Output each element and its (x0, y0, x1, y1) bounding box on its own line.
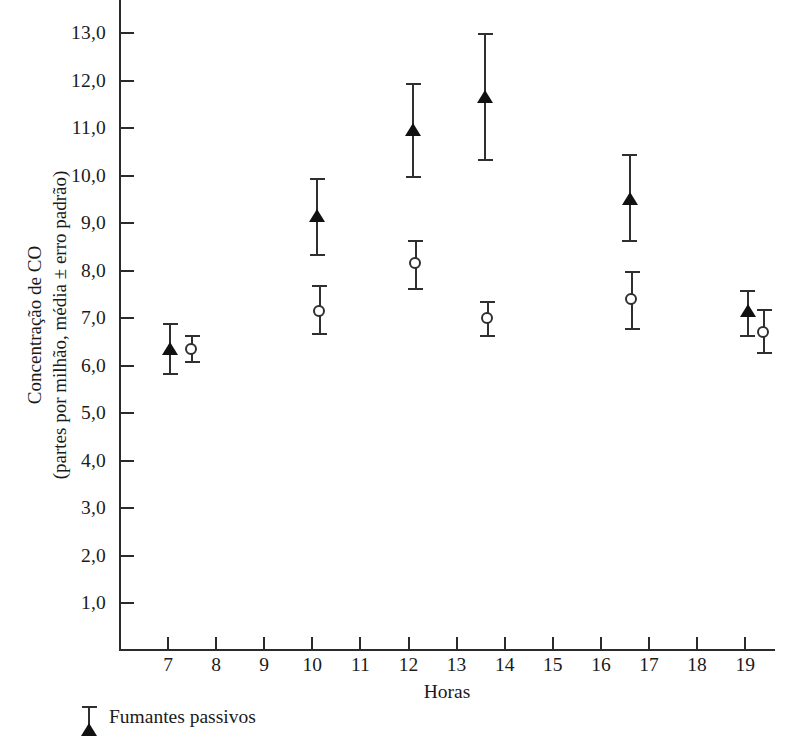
legend-label-fumantes-passivos: Fumantes passivos (109, 706, 256, 728)
error-bar-cap-lower (740, 335, 755, 337)
y-axis-title: Concentração de CO (partes por milhão, m… (22, 115, 72, 535)
marker-open-circle (313, 305, 325, 317)
error-bar-cap-lower (406, 176, 421, 178)
y-tick (121, 222, 134, 224)
error-bar-cap-lower (480, 335, 495, 337)
x-tick (504, 637, 506, 650)
error-bar-cap-upper (163, 323, 178, 325)
marker-filled-triangle (740, 304, 756, 317)
x-tick (456, 637, 458, 650)
x-tick-label: 7 (148, 655, 188, 675)
x-tick-label: 13 (437, 655, 477, 675)
x-tick-label: 10 (292, 655, 332, 675)
error-bar-cap-lower (163, 373, 178, 375)
error-bar-cap-lower (757, 352, 772, 354)
error-bar-cap-upper (408, 240, 423, 242)
x-tick (263, 637, 265, 650)
data-point (623, 271, 641, 330)
data-point (161, 323, 179, 375)
x-tick (744, 637, 746, 650)
x-tick-label: 16 (581, 655, 621, 675)
error-bar-cap-upper (312, 285, 327, 287)
x-tick (408, 637, 410, 650)
error-bar-cap-upper (478, 33, 493, 35)
y-tick (121, 507, 134, 509)
y-axis-line (119, 0, 121, 651)
y-tick (121, 270, 134, 272)
y-tick-label: 1,0 (48, 593, 106, 613)
chart-legend: Fumantes passivos (80, 706, 256, 736)
error-bar-cap-upper (622, 154, 637, 156)
x-tick-label: 18 (677, 655, 717, 675)
error-bar-cap-upper (625, 271, 640, 273)
y-tick-label: 13,0 (48, 23, 106, 43)
y-tick (121, 412, 134, 414)
error-bar-cap-lower (185, 361, 200, 363)
data-point (621, 154, 639, 242)
data-point (476, 33, 494, 161)
data-point (311, 285, 329, 335)
co-concentration-chart: 1,02,03,04,05,06,07,08,09,010,011,012,01… (0, 0, 785, 738)
x-tick-label: 14 (485, 655, 525, 675)
y-tick (121, 555, 134, 557)
y-tick (121, 175, 134, 177)
legend-marker-filled-triangle (80, 706, 98, 736)
x-axis-line (119, 649, 775, 651)
y-tick-label: 2,0 (48, 546, 106, 566)
y-tick (121, 127, 134, 129)
x-axis-title: Horas (119, 681, 775, 703)
x-tick-label: 17 (629, 655, 669, 675)
y-tick (121, 460, 134, 462)
data-point (755, 309, 773, 354)
marker-filled-triangle (309, 209, 325, 222)
data-point (404, 83, 422, 178)
marker-open-circle (409, 257, 421, 269)
y-tick (121, 602, 134, 604)
marker-filled-triangle (622, 192, 638, 205)
error-bar-cap-upper (740, 290, 755, 292)
marker-open-circle (625, 293, 637, 305)
data-point (407, 240, 425, 290)
data-point (479, 301, 497, 337)
error-bar-cap-upper (480, 301, 495, 303)
y-tick (121, 365, 134, 367)
error-bar-cap-lower (310, 254, 325, 256)
marker-open-circle (757, 326, 769, 338)
error-bar-cap-lower (408, 288, 423, 290)
x-tick-label: 19 (725, 655, 765, 675)
error-bar-cap-lower (622, 240, 637, 242)
x-tick-label: 9 (244, 655, 284, 675)
data-point (183, 335, 201, 364)
data-point (739, 290, 757, 338)
error-bar-cap-lower (478, 159, 493, 161)
x-tick (696, 637, 698, 650)
x-tick-label: 15 (533, 655, 573, 675)
error-bar-cap-upper (406, 83, 421, 85)
marker-filled-triangle (162, 342, 178, 355)
y-tick (121, 32, 134, 34)
error-bar-cap-lower (625, 328, 640, 330)
data-point (308, 178, 326, 256)
error-bar-cap-upper (185, 335, 200, 337)
error-bar-cap-lower (312, 333, 327, 335)
x-tick (552, 637, 554, 650)
x-tick (215, 637, 217, 650)
marker-filled-triangle (405, 123, 421, 136)
marker-filled-triangle (477, 90, 493, 103)
x-tick-label: 8 (196, 655, 236, 675)
error-bar-cap-upper (757, 309, 772, 311)
x-tick-label: 11 (340, 655, 380, 675)
x-tick (648, 637, 650, 650)
x-tick-label: 12 (389, 655, 429, 675)
x-tick (359, 637, 361, 650)
y-tick (121, 80, 134, 82)
x-tick (600, 637, 602, 650)
x-tick (167, 637, 169, 650)
error-bar-cap-upper (310, 178, 325, 180)
marker-open-circle (481, 312, 493, 324)
y-tick (121, 317, 134, 319)
y-tick-label: 12,0 (48, 71, 106, 91)
x-tick (311, 637, 313, 650)
marker-open-circle (185, 343, 197, 355)
